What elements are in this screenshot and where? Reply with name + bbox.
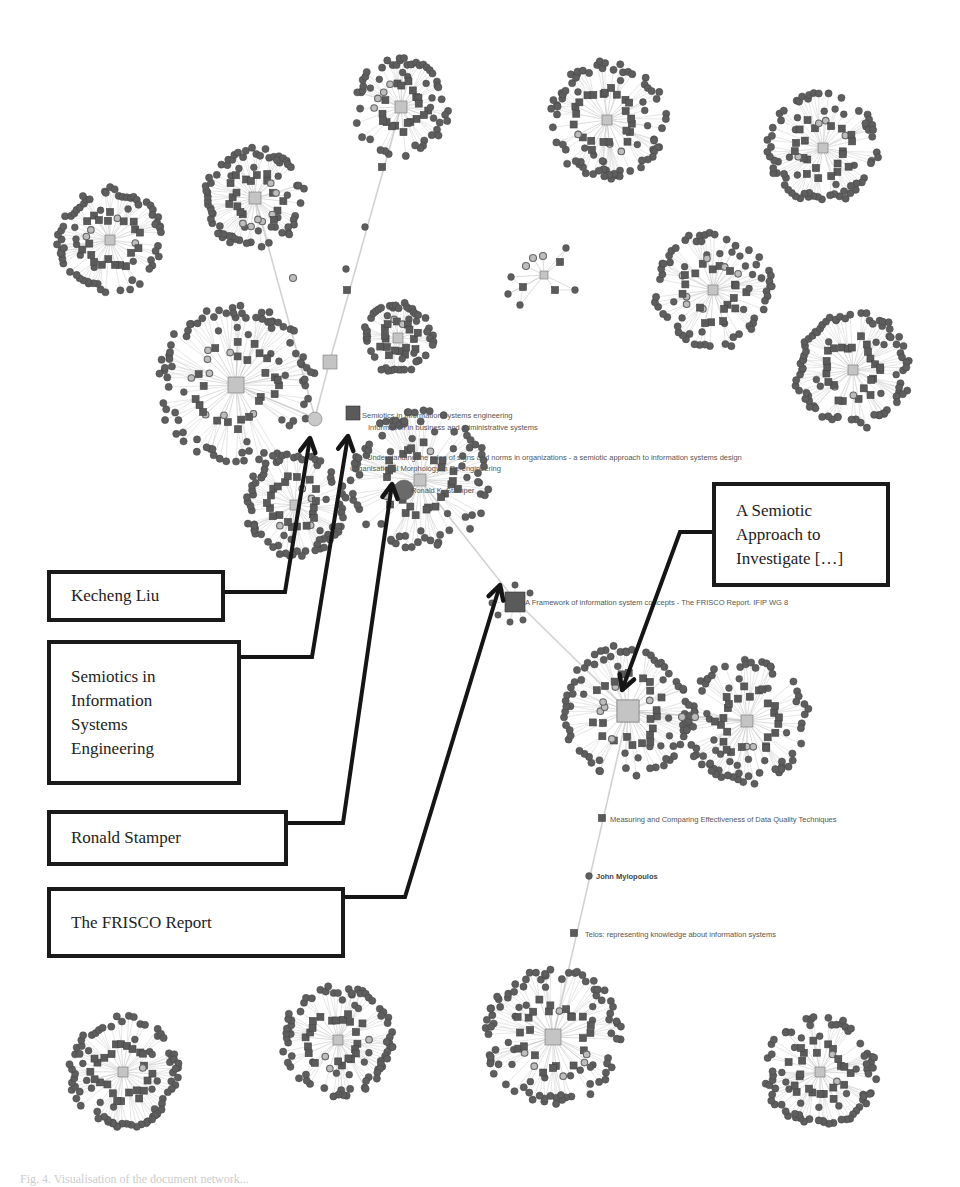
author-node xyxy=(414,539,421,546)
author-node xyxy=(377,146,384,153)
document-node xyxy=(133,1087,140,1094)
author-node xyxy=(791,1110,798,1117)
document-node xyxy=(622,108,629,115)
author-node xyxy=(652,293,659,300)
author-node xyxy=(865,1070,872,1077)
author-node xyxy=(745,247,752,254)
author-node xyxy=(873,339,880,346)
document-node xyxy=(799,1057,806,1064)
edge xyxy=(405,515,415,547)
edge xyxy=(166,399,195,409)
document-node xyxy=(738,744,745,751)
document-node xyxy=(409,87,416,94)
author-node xyxy=(361,1059,368,1066)
author-node xyxy=(172,409,179,416)
document-node xyxy=(588,137,595,144)
author-node xyxy=(793,698,800,705)
document-node xyxy=(285,518,292,525)
document-node xyxy=(746,693,753,700)
author-node xyxy=(245,331,252,338)
author-node xyxy=(215,327,222,334)
document-node xyxy=(377,343,384,350)
author-node xyxy=(756,769,763,776)
author-node xyxy=(214,230,221,237)
document-node xyxy=(244,357,251,364)
author-node xyxy=(609,1003,616,1010)
document-node xyxy=(868,376,875,383)
edge xyxy=(826,93,829,120)
author-node xyxy=(602,59,609,66)
document-node xyxy=(601,89,608,96)
author-node xyxy=(587,1064,594,1071)
author-node xyxy=(199,315,206,322)
author-node xyxy=(300,185,307,192)
ring-node xyxy=(139,1065,146,1072)
document-node xyxy=(579,1035,586,1042)
author-node xyxy=(357,105,364,112)
author-node xyxy=(751,780,758,787)
document-node xyxy=(639,740,646,747)
author-node xyxy=(66,268,73,275)
author-node xyxy=(522,976,529,983)
author-node xyxy=(378,520,385,527)
author-node xyxy=(873,1076,880,1083)
ring-node xyxy=(327,1065,334,1072)
author-node xyxy=(685,701,692,708)
author-node xyxy=(585,69,592,76)
author-node xyxy=(825,338,832,345)
author-node xyxy=(348,990,355,997)
author-node xyxy=(571,678,578,685)
document-node xyxy=(311,1059,318,1066)
mid-hub xyxy=(323,355,337,369)
author-node xyxy=(165,383,172,390)
ring-node xyxy=(735,270,742,277)
document-node xyxy=(576,99,583,106)
author-node xyxy=(607,653,614,660)
document-node xyxy=(303,522,310,529)
author-node xyxy=(722,340,729,347)
document-node xyxy=(563,1006,570,1013)
author-node xyxy=(488,1023,495,1030)
author-node xyxy=(721,663,728,670)
author-node xyxy=(726,758,733,765)
author-node xyxy=(742,263,749,270)
document-node xyxy=(253,172,260,179)
author-node xyxy=(297,1008,304,1015)
author-node xyxy=(815,90,822,97)
document-node xyxy=(823,370,830,377)
author-node xyxy=(170,330,177,337)
author-node xyxy=(361,324,368,331)
author-node xyxy=(203,444,210,451)
document-node xyxy=(600,719,607,726)
author-node xyxy=(423,80,430,87)
author-node xyxy=(193,436,200,443)
author-node xyxy=(862,120,869,127)
author-node xyxy=(478,444,485,451)
document-node xyxy=(599,733,606,740)
author-node xyxy=(780,107,787,114)
author-node xyxy=(149,1051,156,1058)
author-node xyxy=(644,122,651,129)
author-node xyxy=(674,323,681,330)
author-node xyxy=(816,1033,823,1040)
author-node xyxy=(768,283,775,290)
author-node xyxy=(494,993,501,1000)
document-node xyxy=(264,171,271,178)
author-node xyxy=(280,323,287,330)
document-node xyxy=(114,1097,121,1104)
edge xyxy=(105,259,108,292)
author-node xyxy=(770,1036,777,1043)
author-node xyxy=(66,1061,73,1068)
document-node xyxy=(107,208,114,215)
cluster-hub-node xyxy=(228,377,244,393)
document-node xyxy=(398,82,405,89)
ring-node xyxy=(267,180,274,187)
semiotic-approach-node xyxy=(617,700,639,722)
author-node xyxy=(532,969,539,976)
author-node xyxy=(472,441,479,448)
author-node xyxy=(606,1016,613,1023)
document-node xyxy=(415,100,422,107)
author-node xyxy=(387,536,394,543)
document-node xyxy=(547,1002,554,1009)
author-node xyxy=(97,1099,104,1106)
